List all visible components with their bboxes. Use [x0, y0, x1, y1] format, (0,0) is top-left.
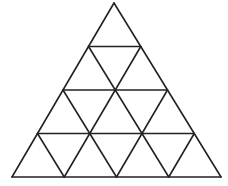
triangle-grid-diagram: [0, 0, 228, 186]
right-parallel-line-3: [38, 134, 65, 178]
triangle-grid-svg: [0, 0, 228, 186]
left-parallel-line-3: [169, 134, 195, 178]
